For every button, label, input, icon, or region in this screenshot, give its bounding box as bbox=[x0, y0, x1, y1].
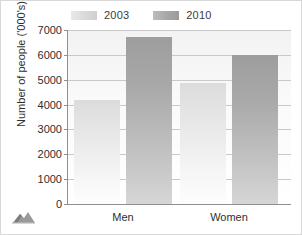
x-axis-label-men: Men bbox=[112, 211, 133, 223]
y-tick-label: 5000 bbox=[38, 74, 62, 86]
bar-chart-figure: 2003 2010 Number of people ('000's) 0100… bbox=[0, 0, 302, 235]
legend-entry-2003: 2003 bbox=[71, 10, 129, 21]
legend-entry-2010: 2010 bbox=[153, 10, 211, 21]
y-tick-label: 0 bbox=[56, 198, 62, 210]
x-axis-label-women: Women bbox=[210, 211, 248, 223]
y-tick-label: 4000 bbox=[38, 99, 62, 111]
y-tick-label: 7000 bbox=[38, 24, 62, 36]
legend-swatch-2010-icon bbox=[153, 11, 179, 20]
y-axis-title: Number of people ('000's) bbox=[15, 0, 27, 154]
legend-label-2010: 2010 bbox=[186, 10, 211, 21]
legend-swatch-2003-icon bbox=[71, 11, 97, 20]
plot-area: 01000200030004000500060007000 MenWomen bbox=[67, 30, 291, 205]
mountain-icon bbox=[11, 210, 37, 224]
bar-men-2003 bbox=[74, 100, 120, 204]
y-tick-label: 3000 bbox=[38, 123, 62, 135]
y-tick-mark bbox=[64, 129, 68, 130]
y-tick-mark bbox=[64, 105, 68, 106]
y-tick-label: 2000 bbox=[38, 148, 62, 160]
y-tick-mark bbox=[64, 30, 68, 31]
bar-women-2003 bbox=[180, 83, 226, 204]
chart-legend: 2003 2010 bbox=[71, 7, 251, 23]
y-tick-label: 6000 bbox=[38, 49, 62, 61]
y-tick-label: 1000 bbox=[38, 173, 62, 185]
y-tick-mark bbox=[64, 55, 68, 56]
bar-women-2010 bbox=[232, 55, 278, 204]
y-tick-mark bbox=[64, 80, 68, 81]
legend-label-2003: 2003 bbox=[104, 10, 129, 21]
y-tick-mark bbox=[64, 154, 68, 155]
y-tick-mark bbox=[64, 179, 68, 180]
bar-men-2010 bbox=[126, 37, 172, 204]
gridline bbox=[68, 30, 291, 31]
y-tick-mark bbox=[64, 204, 68, 205]
